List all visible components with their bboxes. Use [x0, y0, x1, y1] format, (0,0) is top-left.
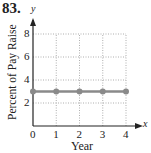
y-tick-label: 2: [24, 96, 30, 108]
y-tick-label: 8: [24, 27, 30, 39]
x-tick-label: 3: [100, 128, 106, 140]
x-tick-label: 1: [53, 128, 59, 140]
data-point: [100, 89, 106, 95]
y-tick-label: 4: [24, 73, 30, 85]
x-tick-label: 4: [123, 128, 129, 140]
data-point: [30, 89, 36, 95]
x-tick-label: 0: [30, 128, 36, 140]
data-point: [53, 89, 59, 95]
x-tick-label: 2: [77, 128, 83, 140]
data-point: [123, 89, 129, 95]
y-tick-label: 6: [24, 50, 30, 62]
grid-lines: [33, 34, 126, 126]
x-axis-arrow-icon: [135, 123, 143, 129]
data-point: [77, 89, 83, 95]
data-series: [30, 89, 129, 95]
y-axis-arrow-icon: [30, 18, 36, 26]
